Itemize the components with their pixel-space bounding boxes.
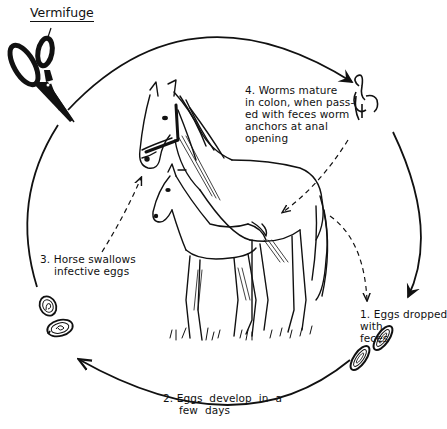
stage-2-line-1: 2. Eggs develop in a — [163, 392, 282, 404]
stage-4-label: 4. Worms mature in colon, when pass- ed … — [245, 84, 354, 144]
cycle-arrow-right — [393, 132, 421, 297]
stage-1-label: 1. Eggs dropped with feces — [360, 308, 447, 344]
dashed-line-eggs-out — [330, 216, 367, 300]
stage-4-line-4: anchors at anal — [245, 120, 354, 132]
stage-2-line-2: few days — [163, 404, 282, 416]
vermifuge-label: Vermifuge — [30, 6, 94, 22]
worm-icon — [354, 75, 378, 120]
stage-4-line-3: ed with feces worm — [245, 108, 354, 120]
stage-4-line-2: in colon, when pass- — [245, 96, 354, 108]
dashed-line-ingestion — [102, 178, 141, 252]
stage-3-label: 3. Horse swallows infective eggs — [40, 253, 136, 277]
stage-4-line-1: 4. Worms mature — [245, 84, 354, 96]
dashed-line-to-colon — [283, 140, 348, 212]
stage-1-line-3: feces — [360, 332, 447, 344]
grass-drawing — [170, 326, 312, 340]
foal-drawing — [153, 164, 267, 340]
scissors-icon — [4, 28, 74, 122]
stage-3-line-1: 3. Horse swallows — [40, 253, 136, 265]
stage-2-label: 2. Eggs develop in a few days — [163, 392, 282, 416]
stage-1-line-1: 1. Eggs dropped — [360, 308, 447, 320]
stage-3-line-2: infective eggs — [40, 265, 136, 277]
stage-1-line-2: with — [360, 320, 447, 332]
egg-icon-infective — [37, 294, 75, 340]
stage-4-line-5: opening — [245, 132, 354, 144]
